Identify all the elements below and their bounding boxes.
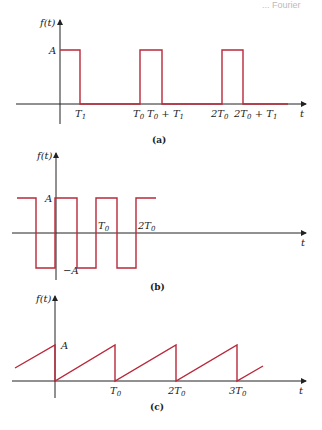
y-axis-label: f(t) — [39, 17, 56, 28]
tick-3T0: 3T0 — [229, 385, 247, 398]
y-axis-label: f(t) — [35, 293, 52, 304]
amplitude-label: A — [60, 340, 68, 351]
y-axis-label: f(t) — [36, 150, 53, 161]
tick-2T0: 2T0 — [167, 385, 186, 398]
tick-T0: T0 — [98, 220, 110, 233]
x-axis-label: t — [301, 237, 306, 248]
figure-c-sawtooth-wave: f(t) A t T0 2T0 3T0 (c) — [12, 293, 306, 412]
x-axis-label: t — [300, 108, 305, 119]
tick-T0: T0 — [133, 108, 145, 121]
tick-2T0: 2T0 — [210, 108, 229, 121]
tick-2T0-plus-T1: 2T0 + T1 — [233, 108, 277, 121]
figure-caption: (c) — [150, 402, 164, 412]
amplitude-label: A — [44, 193, 52, 204]
tick-T0-plus-T1: T0 + T1 — [147, 108, 184, 121]
tick-2T0: 2T0 — [137, 220, 156, 233]
negative-amplitude-label: −A — [63, 265, 79, 276]
figure-caption: (b) — [150, 282, 165, 292]
sawtooth-signal — [15, 345, 263, 381]
x-axis-label: t — [299, 385, 304, 396]
figure-b-square-wave: f(t) A −A t T0 2T0 (b) — [12, 150, 306, 292]
tick-T0: T0 — [110, 385, 122, 398]
figure-a-rectangular-pulse-train: f(t) A t T1 T0 T0 + T1 2T0 2T0 + T1 (a) — [16, 17, 306, 145]
amplitude-label: A — [48, 45, 56, 56]
fourier-figures: ... Fourier f(t) A t T1 T0 T0 + T1 2T0 2… — [0, 0, 322, 430]
page-header: ... Fourier — [262, 0, 301, 10]
figure-caption: (a) — [152, 135, 166, 145]
pulse-train-signal — [60, 50, 288, 104]
tick-T1: T1 — [75, 108, 86, 121]
